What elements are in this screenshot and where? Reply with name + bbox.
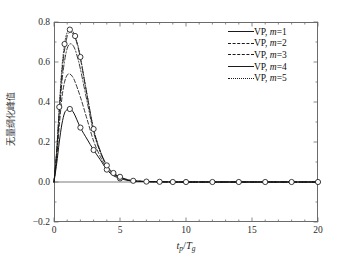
legend-line-swatch [228, 38, 254, 48]
legend-item-m3[interactable]: VP, m=3 [228, 49, 314, 61]
legend-item-label: VP, m=3 [254, 50, 287, 60]
legend-line-swatch [228, 50, 254, 60]
series-line-1 [54, 109, 318, 182]
x-axis-title: tp/Tg [54, 240, 318, 253]
legend-item-m5[interactable]: VP, m=5 [228, 72, 314, 84]
legend-item-label: VP, m=4 [254, 62, 287, 72]
legend-item-label: VP, m=1 [254, 27, 287, 37]
legend-item-m1[interactable]: VP, m=1 [228, 26, 314, 38]
y-tick-label: 0.0 [16, 177, 50, 187]
legend-line-swatch [228, 62, 254, 72]
x-tick-label: 20 [303, 225, 333, 235]
legend-line-swatch [228, 27, 254, 37]
chart-figure: −0.20.00.20.40.60.8 05101520 无量纲化峰值 tp/T… [0, 0, 337, 268]
y-tick-label: 0.8 [16, 17, 50, 27]
y-tick-label: 0.4 [16, 97, 50, 107]
x-tick-label: 0 [39, 225, 69, 235]
y-axis-title: 无量纲化峰值 [4, 76, 17, 162]
legend-line-swatch [228, 73, 254, 83]
legend-item-m2[interactable]: VP, m=2 [228, 38, 314, 50]
x-tick-label: 5 [105, 225, 135, 235]
legend-item-label: VP, m=2 [254, 38, 287, 48]
x-axis-tick-labels: 05101520 [0, 225, 337, 239]
x-tick-label: 10 [171, 225, 201, 235]
legend-item-m4[interactable]: VP, m=4 [228, 61, 314, 73]
x-axis-title-sub-g: g [192, 244, 196, 253]
y-tick-label: 0.6 [16, 57, 50, 67]
x-tick-label: 15 [237, 225, 267, 235]
y-tick-label: 0.2 [16, 137, 50, 147]
legend-item-label: VP, m=5 [254, 73, 287, 83]
legend: VP, m=1VP, m=2VP, m=3VP, m=4VP, m=5 [228, 26, 314, 84]
